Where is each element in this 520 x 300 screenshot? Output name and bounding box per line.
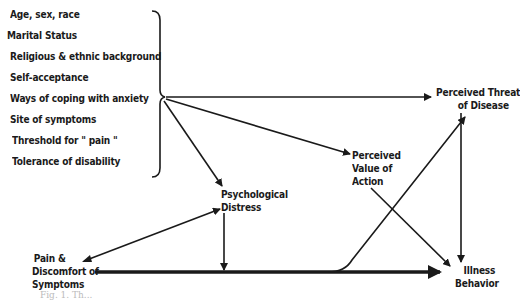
arrow-pain-distress (84, 209, 220, 261)
arrow-main-to-threat (328, 117, 465, 272)
arrow-value-to-illness (371, 188, 450, 266)
factors-brace (152, 11, 165, 177)
